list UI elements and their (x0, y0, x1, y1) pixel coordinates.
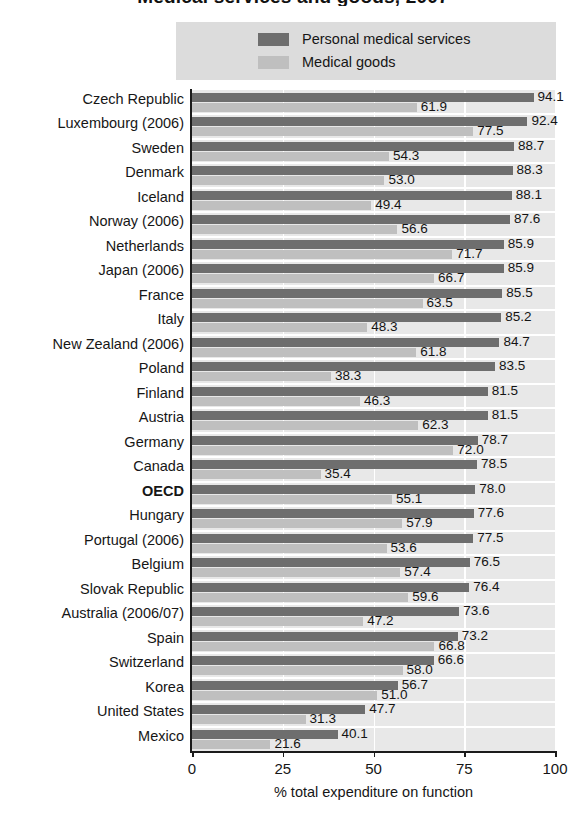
bar-group: 83.538.3 (192, 359, 555, 383)
bar-group: 66.658.0 (192, 653, 555, 677)
bar-medical-goods[interactable] (192, 593, 408, 602)
bar-medical-goods[interactable] (192, 446, 453, 455)
bar-personal-medical-services[interactable] (192, 681, 398, 690)
bar-personal-medical-services[interactable] (192, 313, 501, 322)
x-tick-mark (555, 751, 557, 757)
bar-personal-medical-services[interactable] (192, 730, 338, 739)
bar-value-label: 77.5 (477, 126, 503, 135)
bar-value-label: 53.6 (391, 543, 417, 552)
bar-medical-goods[interactable] (192, 642, 434, 651)
category-label: France (7, 287, 191, 303)
bar-personal-medical-services[interactable] (192, 387, 488, 396)
bar-value-label: 77.5 (477, 533, 503, 542)
bar-group: 40.121.6 (192, 727, 555, 751)
category-label: Slovak Republic (7, 581, 191, 597)
bar-medical-goods[interactable] (192, 470, 321, 479)
bar-personal-medical-services[interactable] (192, 338, 499, 347)
category-label: Switzerland (7, 654, 191, 670)
bar-personal-medical-services[interactable] (192, 191, 512, 200)
x-tick-label: 0 (188, 760, 196, 777)
bar-personal-medical-services[interactable] (192, 289, 502, 298)
legend-item-personal-medical-services: Personal medical services (258, 28, 556, 51)
category-label: Hungary (7, 507, 191, 523)
legend-item-label: Medical goods (302, 55, 396, 70)
category-label: Netherlands (7, 238, 191, 254)
bar-medical-goods[interactable] (192, 495, 392, 504)
plot-area: 94.161.992.477.588.754.388.353.088.149.4… (192, 90, 555, 751)
x-tick-mark (192, 751, 194, 757)
bar-medical-goods[interactable] (192, 299, 423, 308)
bar-personal-medical-services[interactable] (192, 166, 513, 175)
bar-personal-medical-services[interactable] (192, 607, 459, 616)
bar-value-label: 81.5 (492, 410, 518, 419)
bar-value-label: 59.6 (412, 592, 438, 601)
bar-medical-goods[interactable] (192, 568, 400, 577)
bar-medical-goods[interactable] (192, 544, 387, 553)
x-tick-mark (374, 751, 376, 757)
bar-value-label: 49.4 (375, 200, 401, 209)
category-label: Norway (2006) (7, 213, 191, 229)
bar-group: 88.754.3 (192, 139, 555, 163)
category-label: Mexico (7, 728, 191, 744)
bar-medical-goods[interactable] (192, 715, 306, 724)
category-label: Iceland (7, 189, 191, 205)
bar-medical-goods[interactable] (192, 127, 473, 136)
bar-personal-medical-services[interactable] (192, 632, 458, 641)
bar-personal-medical-services[interactable] (192, 485, 475, 494)
bar-medical-goods[interactable] (192, 103, 417, 112)
bar-personal-medical-services[interactable] (192, 705, 365, 714)
bar-value-label: 66.7 (438, 273, 464, 282)
bar-group: 85.248.3 (192, 310, 555, 334)
bar-medical-goods[interactable] (192, 323, 367, 332)
bar-value-label: 55.1 (396, 494, 422, 503)
bar-medical-goods[interactable] (192, 740, 270, 749)
bar-personal-medical-services[interactable] (192, 215, 510, 224)
category-label: Czech Republic (7, 91, 191, 107)
category-label: Canada (7, 458, 191, 474)
legend-item-medical-goods: Medical goods (258, 51, 556, 74)
bar-personal-medical-services[interactable] (192, 142, 514, 151)
bar-group: 92.477.5 (192, 114, 555, 138)
bar-personal-medical-services[interactable] (192, 93, 534, 102)
bar-value-label: 71.7 (456, 249, 482, 258)
bar-personal-medical-services[interactable] (192, 656, 434, 665)
category-label: Austria (7, 409, 191, 425)
bar-medical-goods[interactable] (192, 617, 363, 626)
bar-medical-goods[interactable] (192, 274, 434, 283)
bar-group: 88.353.0 (192, 163, 555, 187)
bar-group: 88.149.4 (192, 188, 555, 212)
bar-medical-goods[interactable] (192, 519, 402, 528)
bar-medical-goods[interactable] (192, 397, 360, 406)
bar-group: 73.266.8 (192, 629, 555, 653)
bar-medical-goods[interactable] (192, 348, 416, 357)
x-tick-label: 75 (456, 760, 473, 777)
bar-medical-goods[interactable] (192, 250, 452, 259)
bar-value-label: 31.3 (310, 714, 336, 723)
bar-value-label: 47.2 (367, 616, 393, 625)
bar-value-label: 78.7 (482, 435, 508, 444)
legend-item-label: Personal medical services (302, 32, 470, 47)
bar-value-label: 21.6 (274, 739, 300, 748)
bar-value-label: 57.9 (406, 518, 432, 527)
bar-medical-goods[interactable] (192, 691, 377, 700)
bar-medical-goods[interactable] (192, 372, 331, 381)
bar-value-label: 83.5 (499, 361, 525, 370)
bar-group: 87.656.6 (192, 212, 555, 236)
bar-personal-medical-services[interactable] (192, 436, 478, 445)
bar-personal-medical-services[interactable] (192, 534, 473, 543)
bar-medical-goods[interactable] (192, 421, 418, 430)
bar-value-label: 72.0 (457, 445, 483, 454)
bar-group: 84.761.8 (192, 335, 555, 359)
bar-medical-goods[interactable] (192, 666, 403, 675)
bar-medical-goods[interactable] (192, 152, 389, 161)
bar-value-label: 88.1 (516, 190, 542, 199)
bar-group: 78.772.0 (192, 433, 555, 457)
bar-value-label: 85.2 (505, 312, 531, 321)
x-tick-label: 50 (365, 760, 382, 777)
category-label: Poland (7, 360, 191, 376)
bar-medical-goods[interactable] (192, 225, 397, 234)
bar-medical-goods[interactable] (192, 201, 371, 210)
bar-medical-goods[interactable] (192, 176, 384, 185)
bar-value-label: 88.7 (518, 141, 544, 150)
bar-value-label: 81.5 (492, 386, 518, 395)
